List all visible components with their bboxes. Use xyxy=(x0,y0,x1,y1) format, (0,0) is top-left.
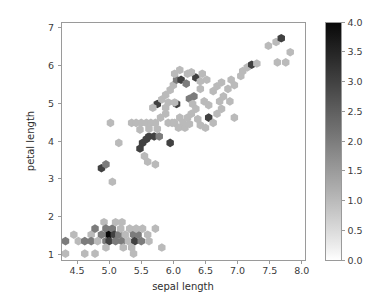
hexbin-cell xyxy=(152,224,159,233)
hexbin-cell xyxy=(81,237,88,246)
colorbar-tick-label: 1.5 xyxy=(348,165,363,176)
hexbin-cell xyxy=(115,139,122,148)
axes-spines xyxy=(61,22,305,260)
x-tick-label: 6.5 xyxy=(198,265,213,276)
hexbin-cell xyxy=(62,237,69,246)
hexbin-cell xyxy=(282,58,289,67)
x-tick-label: 4.5 xyxy=(69,265,84,276)
plot-border xyxy=(61,22,305,260)
hexbin-figure: 4.55.05.56.06.57.07.58.01234567 0.00.51.… xyxy=(0,0,375,304)
x-axis-label: sepal length xyxy=(152,281,214,292)
hexbin-cell xyxy=(231,113,238,122)
hexbin-cell xyxy=(136,125,143,134)
hexbin-cells xyxy=(62,34,294,258)
x-tick-label: 6.0 xyxy=(166,265,181,276)
colorbar-gradient xyxy=(325,22,341,260)
colorbar-tick-label: 2.0 xyxy=(348,136,363,147)
y-tick-label: 4 xyxy=(48,136,54,147)
axis-ticks: 4.55.05.56.06.57.07.58.01234567 xyxy=(48,22,309,276)
hexbin-cell xyxy=(166,139,173,148)
y-axis-label: petal length xyxy=(25,111,36,171)
y-tick-label: 6 xyxy=(48,60,54,71)
x-tick-label: 7.5 xyxy=(262,265,277,276)
hexbin-cell xyxy=(75,237,82,246)
hexbin-cell xyxy=(62,249,69,258)
plot-canvas: 4.55.05.56.06.57.07.58.01234567 0.00.51.… xyxy=(0,0,375,304)
hexbin-cell xyxy=(109,178,116,187)
y-tick-label: 5 xyxy=(48,98,54,109)
y-tick-label: 7 xyxy=(48,22,54,33)
x-tick-label: 5.5 xyxy=(134,265,149,276)
hexbin-cell xyxy=(107,119,114,128)
colorbar: 0.00.51.01.52.02.53.03.54.0 xyxy=(325,17,363,266)
x-tick-label: 8.0 xyxy=(294,265,309,276)
hexbin-cell xyxy=(287,48,294,57)
x-tick-label: 7.0 xyxy=(230,265,245,276)
hexbin-cell xyxy=(156,132,163,141)
x-tick-label: 5.0 xyxy=(102,265,117,276)
colorbar-tick-label: 2.5 xyxy=(348,106,363,117)
colorbar-tick-label: 0.5 xyxy=(348,225,363,236)
colorbar-tick-label: 1.0 xyxy=(348,195,363,206)
y-tick-label: 1 xyxy=(48,249,54,260)
y-tick-label: 2 xyxy=(48,211,54,222)
hexbin-cell xyxy=(152,160,159,169)
hexbin-cell xyxy=(226,97,233,106)
y-tick-label: 3 xyxy=(48,173,54,184)
hexbin-cell xyxy=(265,42,272,51)
hexbin-cell xyxy=(197,85,204,94)
hexbin-cell xyxy=(70,230,77,239)
hexbin-cell xyxy=(87,237,94,246)
colorbar-tick-label: 0.0 xyxy=(348,255,363,266)
colorbar-tick-label: 3.0 xyxy=(348,76,363,87)
hexbin-cell xyxy=(81,249,88,258)
hexbin-cell xyxy=(158,243,165,252)
hexbin-cell xyxy=(274,58,281,67)
colorbar-tick-label: 4.0 xyxy=(348,17,363,28)
hexbin-cell xyxy=(91,249,98,258)
colorbar-tick-label: 3.5 xyxy=(348,46,363,57)
hexbin-cell xyxy=(224,85,231,94)
